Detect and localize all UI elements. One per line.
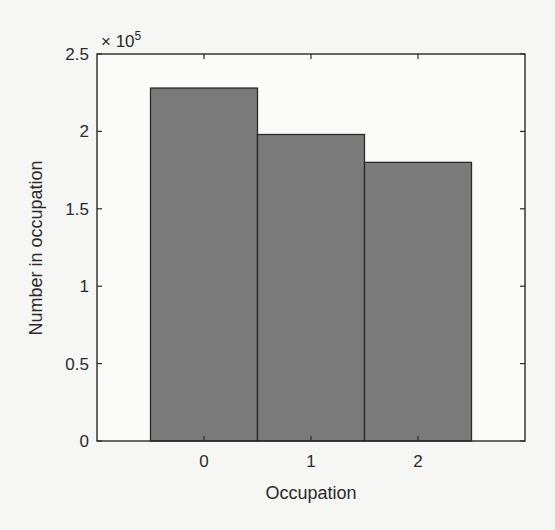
y-axis-exponent: × 105: [101, 29, 142, 51]
x-tick-label: 0: [199, 452, 208, 471]
y-tick-label: 0: [80, 432, 89, 451]
y-axis-label: Number in occupation: [26, 160, 46, 335]
bar-2: [365, 162, 472, 441]
plot-area: 00.511.522.5012: [65, 45, 525, 471]
y-tick-label: 0.5: [65, 355, 89, 374]
x-tick-label: 2: [413, 452, 422, 471]
y-tick-label: 2: [80, 122, 89, 141]
y-tick-label: 1.5: [65, 200, 89, 219]
bar-0: [151, 88, 258, 441]
bar-1: [258, 134, 365, 441]
x-axis-label: Occupation: [265, 483, 356, 503]
bar-chart: 00.511.522.5012 × 105 Occupation Number …: [0, 0, 555, 530]
x-tick-label: 1: [306, 452, 315, 471]
y-tick-label: 1: [80, 277, 89, 296]
y-tick-label: 2.5: [65, 45, 89, 64]
